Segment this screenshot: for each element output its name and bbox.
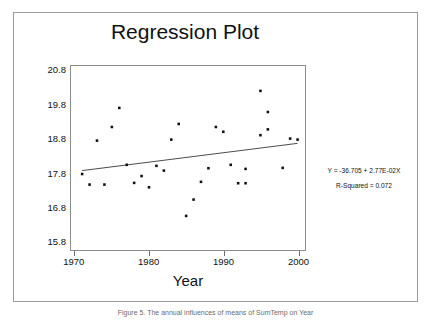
data-point bbox=[96, 139, 99, 142]
data-point bbox=[185, 215, 188, 218]
y-tick-label: 15.8 bbox=[32, 236, 66, 247]
data-point bbox=[229, 164, 232, 167]
data-point bbox=[267, 111, 270, 114]
y-tick-label: 17.8 bbox=[32, 168, 66, 179]
y-tick-label: 18.8 bbox=[32, 133, 66, 144]
x-tick-label: 2000 bbox=[279, 256, 319, 267]
regression-figure: Regression Plot 20.819.818.817.816.815.8… bbox=[0, 0, 433, 320]
x-tick-label: 1970 bbox=[54, 256, 94, 267]
data-point bbox=[259, 90, 262, 93]
x-tick-label: 1980 bbox=[129, 256, 169, 267]
plot-area bbox=[70, 65, 306, 251]
x-tick-mark bbox=[74, 251, 75, 256]
data-point bbox=[125, 164, 128, 167]
data-point bbox=[81, 173, 84, 176]
data-point bbox=[103, 183, 106, 186]
regression-equation: Y = -36.705 + 2.77E-02X bbox=[312, 163, 416, 178]
data-point bbox=[289, 137, 292, 140]
data-point bbox=[207, 167, 210, 170]
regression-line bbox=[82, 143, 297, 170]
page-title: Regression Plot bbox=[60, 20, 310, 44]
data-point bbox=[163, 169, 166, 172]
data-point bbox=[244, 168, 247, 171]
x-tick-mark bbox=[299, 251, 300, 256]
data-point bbox=[281, 167, 284, 170]
figure-caption: Figure 5. The annual influences of means… bbox=[13, 309, 418, 320]
data-point bbox=[222, 130, 225, 133]
y-tick-label: 19.8 bbox=[32, 99, 66, 110]
data-point bbox=[192, 198, 195, 201]
data-point bbox=[259, 134, 262, 137]
data-point bbox=[140, 175, 143, 178]
data-point bbox=[267, 128, 270, 131]
y-tick-label: 20.8 bbox=[32, 64, 66, 75]
data-point bbox=[244, 182, 247, 185]
data-point bbox=[155, 165, 158, 168]
data-point bbox=[133, 182, 136, 185]
x-axis-label: Year bbox=[70, 272, 306, 289]
x-tick-label: 1990 bbox=[204, 256, 244, 267]
data-point bbox=[296, 138, 299, 141]
data-point bbox=[177, 123, 180, 126]
data-point bbox=[111, 126, 114, 129]
data-point bbox=[215, 126, 218, 129]
y-tick-label: 16.8 bbox=[32, 202, 66, 213]
data-point bbox=[88, 183, 91, 186]
data-point bbox=[118, 107, 121, 110]
data-point bbox=[148, 186, 151, 189]
data-point bbox=[200, 181, 203, 184]
data-point bbox=[170, 138, 173, 141]
x-tick-mark bbox=[149, 251, 150, 256]
regression-annotation: Y = -36.705 + 2.77E-02X R-Squared = 0.07… bbox=[312, 163, 416, 193]
scatter-canvas bbox=[71, 66, 305, 250]
y-axis-ticks: 20.819.818.817.816.815.8 bbox=[28, 0, 66, 320]
x-tick-mark bbox=[224, 251, 225, 256]
data-point bbox=[237, 182, 240, 185]
r-squared-value: R-Squared = 0.072 bbox=[312, 178, 416, 193]
